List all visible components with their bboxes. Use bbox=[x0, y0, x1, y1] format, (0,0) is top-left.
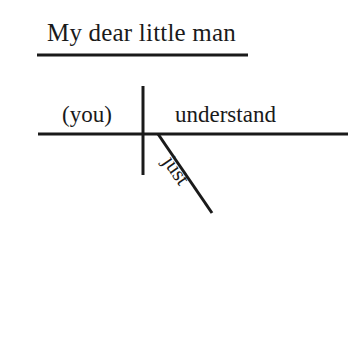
sentence-diagram-canvas: My dear little man (you) understand just bbox=[0, 0, 362, 341]
verb-label: understand bbox=[175, 103, 276, 126]
subject-label: (you) bbox=[62, 103, 112, 126]
direct-address-label: My dear little man bbox=[47, 20, 236, 45]
